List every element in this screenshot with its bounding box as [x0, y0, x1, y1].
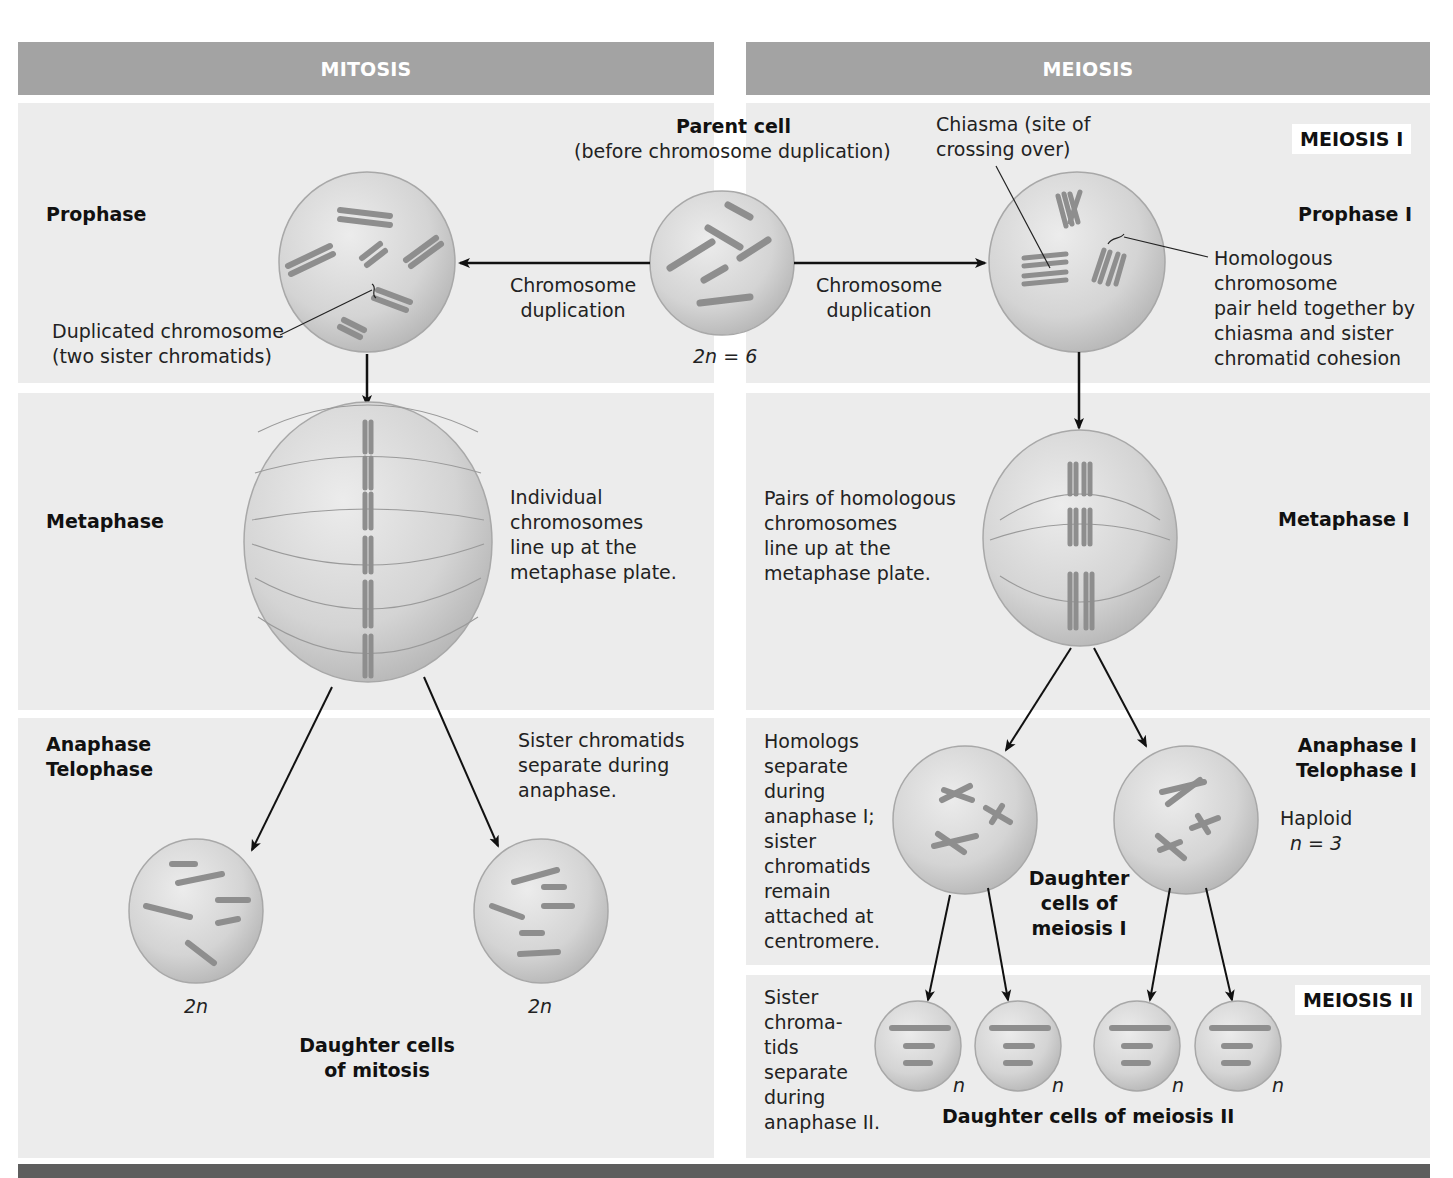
meiosis2-cell-4: [1195, 1001, 1281, 1091]
meiosis1-daughter-cell-left: [893, 746, 1037, 894]
arrow-to-meiosis1-daughter-right: [1094, 648, 1146, 746]
arrow-meiosis2-b: [988, 888, 1008, 1000]
meiosis2-daughter-cells: [875, 1001, 1281, 1091]
meiosis2-ploidy-3: n: [1172, 1073, 1184, 1098]
anaphase-note: Sister chromatids separate during anapha…: [518, 728, 685, 803]
stage-anaphase-telophase1: Anaphase I Telophase I: [1296, 733, 1417, 783]
diagram-graphics: [0, 0, 1453, 1178]
meiosis2-note: Sister chroma- tids separate during anap…: [764, 985, 880, 1135]
arrow-to-meiosis1-daughter-left: [1006, 648, 1071, 750]
homologous-pair-label: Homologous chromosome pair held together…: [1214, 246, 1415, 371]
metaphase-note: Individual chromosomes line up at the me…: [510, 485, 677, 585]
arrow-meiosis2-c: [1150, 888, 1170, 1000]
mitosis-metaphase-cell: [244, 402, 492, 682]
meiosis-metaphase1-cell: [983, 430, 1177, 646]
footer-bar: [18, 1164, 1430, 1178]
stage-prophase1: Prophase I: [1298, 202, 1412, 227]
haploid-n: n = 3: [1290, 831, 1342, 856]
meiosis-prophase1-cell: [989, 172, 1165, 352]
meiosis2-tag: MEIOSIS II: [1295, 985, 1421, 1015]
duplication-label-right: Chromosome duplication: [814, 273, 944, 323]
stage-anaphase-telophase: Anaphase Telophase: [46, 732, 153, 782]
meiosis-metaphase-note: Pairs of homologous chromosomes line up …: [764, 486, 956, 586]
meiosis2-cell-3: [1094, 1001, 1180, 1091]
parent-cell-subtitle: (before chromosome duplication): [574, 139, 891, 164]
meiosis2-cell-2: [975, 1001, 1061, 1091]
mitosis-daughter-ploidy-left: 2n: [184, 994, 208, 1019]
meiosis-anaphase-note: Homologs separate during anaphase I; sis…: [764, 729, 880, 954]
meiosis2-cell-1: [875, 1001, 961, 1091]
arrow-meiosis2-a: [928, 895, 950, 1000]
mitosis-daughter-label: Daughter cells of mitosis: [286, 1033, 468, 1083]
mitosis-daughter-cell-left: [129, 839, 263, 983]
mitosis-daughter-ploidy-right: 2n: [528, 994, 552, 1019]
meiosis2-daughter-label: Daughter cells of meiosis II: [942, 1104, 1234, 1129]
haploid-label: Haploid: [1280, 806, 1352, 831]
duplicated-chromosome-label: Duplicated chromosome (two sister chroma…: [52, 319, 284, 369]
stage-metaphase1: Metaphase I: [1278, 507, 1410, 532]
duplication-label-left: Chromosome duplication: [508, 273, 638, 323]
mitosis-prophase-cell: [279, 172, 455, 352]
chiasma-label: Chiasma (site of crossing over): [936, 112, 1090, 162]
meiosis2-ploidy-1: n: [953, 1073, 965, 1098]
parent-cell: [650, 191, 794, 335]
mitosis-daughter-cell-right: [474, 839, 608, 983]
arrow-meiosis2-d: [1206, 888, 1232, 1000]
stage-prophase: Prophase: [46, 202, 147, 227]
arrow-to-mitosis-daughter-left: [252, 687, 332, 850]
meiosis1-tag: MEIOSIS I: [1292, 124, 1411, 154]
parent-cell-title: Parent cell: [676, 114, 791, 139]
stage-metaphase: Metaphase: [46, 509, 164, 534]
meiosis1-daughter-label: Daughter cells of meiosis I: [1020, 866, 1138, 941]
parent-ploidy: 2n = 6: [693, 344, 757, 369]
meiosis2-ploidy-4: n: [1272, 1073, 1284, 1098]
meiosis2-ploidy-2: n: [1052, 1073, 1064, 1098]
arrow-to-mitosis-daughter-right: [424, 677, 498, 846]
